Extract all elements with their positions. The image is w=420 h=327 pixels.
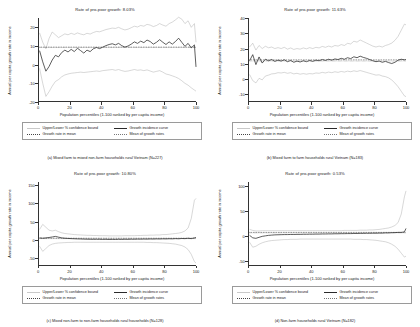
x-tick	[38, 102, 39, 105]
x-tick	[343, 266, 344, 269]
x-tick-label: 0	[37, 105, 39, 110]
panel-a: Rate of pro-poor growth: 8.03% Annual pe…	[0, 0, 210, 164]
x-tick-label: 80	[372, 269, 376, 274]
y-tick	[35, 222, 38, 223]
x-tick-label: 40	[99, 105, 103, 110]
panel-caption: (a) Mixed farm to mixed non-farm househo…	[0, 156, 210, 160]
x-tick-label: 20	[67, 269, 71, 274]
legend-gic: Growth incidence curve	[114, 290, 197, 294]
y-tick-label: 50	[30, 219, 34, 224]
x-tick	[248, 102, 249, 105]
y-tick-label: 20	[240, 46, 244, 51]
y-tick-label: 150	[28, 183, 35, 188]
lower-confidence-bound	[250, 239, 406, 257]
legend-mean-rates: Mean of growth rates	[324, 296, 407, 300]
x-tick	[196, 266, 197, 269]
legend: Upper/Lower % confidence bound Growth in…	[232, 286, 412, 304]
line-swatch-icon	[324, 133, 337, 136]
lower-confidence-bound	[40, 242, 196, 263]
y-tick-label: -10	[239, 92, 245, 97]
plot-area: -10010203040020406080100	[248, 18, 406, 102]
y-tick-label: 20	[30, 25, 34, 30]
legend-ci: Upper/Lower % confidence bound	[237, 290, 320, 294]
panel-c: Rate of pro-poor growth: 10.80% Annual p…	[0, 164, 210, 327]
y-tick-label: 40	[240, 16, 244, 21]
y-tick-label: -50	[239, 258, 245, 263]
x-tick-label: 40	[99, 269, 103, 274]
panel-caption: (c) Mixed non-farm to non-farm household…	[0, 319, 210, 323]
y-tick	[245, 261, 248, 262]
x-tick-label: 100	[403, 269, 410, 274]
x-tick	[280, 102, 281, 105]
legend-ci: Upper/Lower % confidence bound	[27, 126, 110, 130]
growth-incidence-curve	[250, 228, 406, 238]
x-tick-label: 100	[193, 269, 200, 274]
y-tick	[245, 186, 248, 187]
y-tick	[245, 79, 248, 80]
growth-incidence-curve	[40, 38, 196, 71]
x-tick-label: 80	[162, 105, 166, 110]
legend-growth-mean: Growth rate in mean	[237, 132, 320, 136]
y-tick-label: 100	[28, 201, 35, 206]
legend-gic: Growth incidence curve	[324, 290, 407, 294]
y-tick-label: 0	[33, 62, 35, 67]
lower-confidence-bound	[250, 71, 406, 97]
x-tick	[164, 266, 165, 269]
y-tick-label: 0	[243, 233, 245, 238]
panel-caption: (d) Non-farm households rural Vietnam (N…	[210, 319, 420, 323]
y-axis-label: Annual per capita growth rate in income	[215, 182, 223, 266]
line-swatch-icon	[114, 133, 127, 136]
x-tick	[101, 102, 102, 105]
legend-gic: Growth incidence curve	[324, 126, 407, 130]
x-axis-label: Population percentiles (1-100 ranked by …	[230, 112, 414, 117]
line-swatch-icon	[27, 296, 40, 299]
x-tick-label: 80	[162, 269, 166, 274]
upper-confidence-bound	[40, 198, 196, 235]
growth-incidence-curve-figure: Rate of pro-poor growth: 8.03% Annual pe…	[0, 0, 420, 327]
line-swatch-icon	[324, 296, 337, 299]
x-tick	[248, 266, 249, 269]
y-tick-label: -50	[29, 256, 35, 261]
y-tick-label: 0	[33, 237, 35, 242]
y-axis-label: Annual per capita growth rate in income	[5, 18, 13, 102]
x-tick	[343, 102, 344, 105]
y-tick	[35, 65, 38, 66]
panel-title: Rate of pro-poor growth: 10.80%	[0, 171, 210, 176]
x-tick-label: 60	[131, 105, 135, 110]
line-swatch-icon	[27, 133, 40, 136]
curves	[248, 18, 406, 102]
line-swatch-icon	[237, 133, 250, 136]
x-tick	[280, 266, 281, 269]
x-tick	[374, 266, 375, 269]
x-tick-label: 80	[372, 105, 376, 110]
line-swatch-icon	[237, 290, 250, 293]
y-tick-label: 10	[240, 61, 244, 66]
y-tick-label: -20	[29, 100, 35, 105]
upper-confidence-bound	[250, 24, 406, 50]
y-tick	[245, 18, 248, 19]
y-tick-label: -10	[29, 81, 35, 86]
legend-growth-mean: Growth rate in mean	[27, 296, 110, 300]
line-swatch-icon	[237, 296, 250, 299]
x-tick-label: 20	[67, 105, 71, 110]
y-tick-label: 100	[238, 184, 245, 189]
x-tick	[70, 266, 71, 269]
x-tick-label: 0	[37, 269, 39, 274]
y-tick	[35, 258, 38, 259]
panel-d: Rate of pro-poor growth: 0.53% Annual pe…	[210, 164, 420, 327]
x-axis-label: Population percentiles (1-100 ranked by …	[20, 276, 204, 281]
y-tick	[245, 236, 248, 237]
x-axis-label: Population percentiles (1-100 ranked by …	[230, 276, 414, 281]
x-tick	[164, 102, 165, 105]
upper-confidence-bound	[250, 190, 406, 230]
legend-growth-mean: Growth rate in mean	[27, 132, 110, 136]
x-tick	[311, 266, 312, 269]
x-tick	[374, 102, 375, 105]
line-swatch-icon	[324, 127, 337, 130]
legend-ci: Upper/Lower % confidence bound	[237, 126, 320, 130]
x-tick	[311, 102, 312, 105]
x-tick-label: 40	[309, 269, 313, 274]
line-swatch-icon	[237, 127, 250, 130]
y-tick	[35, 203, 38, 204]
panel-title: Rate of pro-poor growth: 11.63%	[210, 7, 420, 12]
